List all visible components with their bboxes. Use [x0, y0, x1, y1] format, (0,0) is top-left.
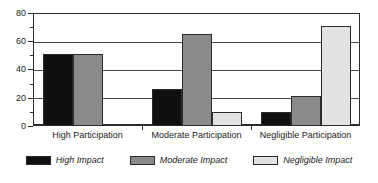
x-tick-label-negligible-participation: Negligible Participation: [251, 130, 360, 141]
legend-item-moderate-impact: Moderate Impact: [130, 156, 228, 165]
legend-item-negligible-impact: Negligible Impact: [253, 156, 352, 165]
x-tick-label-high-participation: High Participation: [33, 130, 142, 141]
y-tick-label-40: 40: [16, 65, 26, 74]
legend-swatch-negligible-impact: [253, 156, 278, 165]
bar-high-participation-moderate-impact: [73, 54, 103, 126]
bar-chart: 80 60 40 20 0: [0, 0, 378, 183]
bar-negligible-participation-high-impact: [261, 112, 291, 126]
legend-label-negligible-impact: Negligible Impact: [283, 156, 352, 165]
bar-negligible-participation-negligible-impact: [321, 26, 351, 126]
y-tick-label-0: 0: [21, 122, 26, 131]
legend-swatch-moderate-impact: [130, 156, 155, 165]
y-tick-label-60: 60: [16, 37, 26, 46]
bar-moderate-participation-negligible-impact: [212, 112, 242, 126]
legend-swatch-high-impact: [26, 156, 51, 165]
bar-group-negligible-participation: [251, 13, 360, 126]
chart-legend: High Impact Moderate Impact Negligible I…: [0, 156, 378, 165]
bar-negligible-participation-moderate-impact: [291, 96, 321, 126]
bar-group-high-participation: [33, 13, 142, 126]
legend-label-moderate-impact: Moderate Impact: [160, 156, 228, 165]
y-tick-label-80: 80: [16, 9, 26, 18]
legend-item-high-impact: High Impact: [26, 156, 104, 165]
y-tick-label-20: 20: [16, 94, 26, 103]
bar-moderate-participation-high-impact: [152, 89, 182, 126]
bar-moderate-participation-moderate-impact: [182, 34, 212, 126]
x-axis: High Participation Moderate Participatio…: [33, 130, 360, 141]
x-tick-label-moderate-participation: Moderate Participation: [142, 130, 251, 141]
bars-layer: [33, 13, 360, 126]
bar-group-moderate-participation: [142, 13, 251, 126]
y-tick-mark-0: [28, 126, 33, 127]
y-axis: 80 60 40 20 0: [0, 0, 33, 140]
legend-label-high-impact: High Impact: [56, 156, 104, 165]
bar-high-participation-high-impact: [43, 54, 73, 126]
